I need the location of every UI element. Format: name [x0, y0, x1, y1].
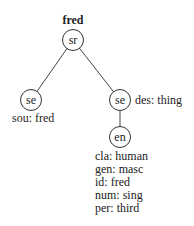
- attr-per: per: third: [95, 202, 148, 215]
- node-en-attrs: cla: human gen: masc id: fred num: sing …: [95, 150, 148, 215]
- node-se-left[interactable]: se: [20, 89, 42, 111]
- node-se-right-attr: des: thing: [135, 94, 182, 107]
- node-se-right-label: se: [115, 94, 125, 106]
- node-se-left-label: se: [26, 94, 36, 106]
- node-se-left-attr: sou: fred: [12, 112, 54, 125]
- node-en-label: en: [114, 131, 125, 143]
- node-sr-label: sr: [69, 34, 78, 46]
- node-se-right[interactable]: se: [109, 89, 131, 111]
- root-title: fred: [60, 14, 86, 27]
- node-en[interactable]: en: [109, 126, 131, 148]
- node-sr[interactable]: sr: [62, 29, 84, 51]
